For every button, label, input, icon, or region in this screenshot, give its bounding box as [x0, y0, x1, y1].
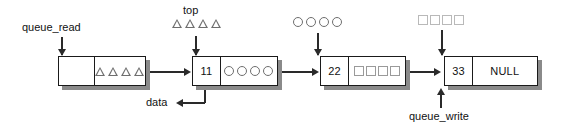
link-node2-node3-arrowhead-icon [312, 68, 319, 76]
above-node-4-squares-icon [418, 15, 464, 25]
node-4-top-arrowhead-icon [438, 49, 446, 56]
node-2-data-cell: 11 [193, 57, 221, 85]
node-3-top-arrowhead-icon [314, 49, 322, 56]
link-node1-node2-line [146, 71, 186, 73]
node-1 [58, 56, 146, 86]
node-2-circles-icon [224, 66, 273, 76]
node-2-payload-cell [221, 57, 277, 85]
queue-write-label: queue_write [409, 110, 469, 122]
node-1-data-cell [59, 57, 95, 85]
queue-write-arrowhead-icon [437, 88, 445, 95]
top-triangles-icon [172, 19, 221, 28]
data-arrowhead-icon [176, 99, 183, 107]
node-4-payload-cell: NULL [473, 57, 537, 85]
node-3-data-cell: 22 [321, 57, 349, 85]
queue-read-label: queue_read [22, 21, 81, 33]
node-4: 33 NULL [444, 56, 538, 86]
node-1-triangles-icon [95, 67, 144, 76]
linked-list-queue-diagram: queue_read top 11 data [0, 0, 565, 134]
node-3: 22 [320, 56, 406, 86]
top-label: top [183, 4, 198, 16]
link-node3-node4-arrowhead-icon [434, 68, 441, 76]
node-3-squares-icon [354, 66, 400, 76]
top-arrowhead-icon [192, 49, 200, 56]
link-node2-node3-line [278, 71, 314, 73]
node-4-data-cell: 33 [445, 57, 473, 85]
queue-write-pointer-line [440, 95, 442, 108]
node-3-payload-cell [349, 57, 405, 85]
node-2: 11 [192, 56, 278, 86]
above-node-3-circles-icon [293, 17, 342, 27]
data-pointer-horizontal-line [183, 102, 205, 104]
link-node1-node2-arrowhead-icon [184, 68, 191, 76]
queue-read-arrowhead-icon [58, 49, 66, 56]
data-label: data [146, 96, 167, 108]
node-1-payload-cell [95, 57, 145, 85]
